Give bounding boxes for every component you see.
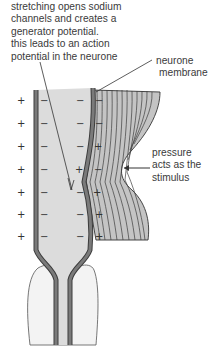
svg-text:+: + <box>94 141 102 152</box>
svg-text:−: − <box>40 95 48 106</box>
svg-text:−: − <box>40 118 48 129</box>
svg-text:−: − <box>76 141 84 152</box>
svg-text:−: − <box>95 118 103 129</box>
svg-text:−: − <box>76 118 84 129</box>
svg-text:−: − <box>95 95 103 106</box>
membrane-pointer <box>96 60 152 92</box>
svg-text:+: + <box>17 231 25 242</box>
inner-left-signs: − − − − − − − <box>40 95 48 242</box>
svg-text:+: + <box>95 231 103 242</box>
corpuscle-diagram: + + + + + + + − − − − − − − − − − + − − … <box>0 0 212 349</box>
svg-text:+: + <box>75 164 83 175</box>
svg-text:−: − <box>40 231 48 242</box>
svg-text:+: + <box>17 164 25 175</box>
svg-text:−: − <box>94 164 102 175</box>
svg-text:+: + <box>17 95 25 106</box>
svg-text:−: − <box>40 164 48 175</box>
svg-text:−: − <box>76 209 84 220</box>
svg-text:−: − <box>76 95 84 106</box>
svg-text:−: − <box>40 141 48 152</box>
svg-text:+: + <box>17 141 25 152</box>
svg-text:−: − <box>76 187 84 198</box>
svg-text:+: + <box>17 187 25 198</box>
svg-text:−: − <box>76 231 84 242</box>
outer-left-signs: + + + + + + + <box>17 95 25 242</box>
outer-right-signs: − − + − + + + <box>93 95 103 242</box>
svg-text:+: + <box>17 118 25 129</box>
svg-text:+: + <box>93 187 101 198</box>
svg-text:+: + <box>95 209 103 220</box>
svg-text:+: + <box>17 209 25 220</box>
svg-text:−: − <box>40 187 48 198</box>
svg-text:−: − <box>40 209 48 220</box>
inner-right-signs: − − − + − − − <box>75 95 84 242</box>
